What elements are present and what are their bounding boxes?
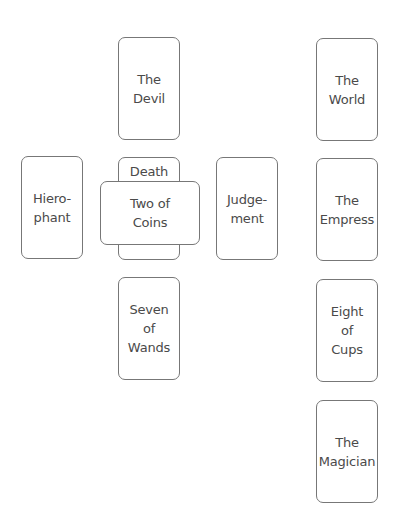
card-the-empress[interactable]: The Empress <box>316 158 378 261</box>
card-label: Death <box>130 162 168 181</box>
card-two-of-coins[interactable]: Two of Coins <box>100 181 200 245</box>
card-label: The Empress <box>320 191 374 229</box>
card-label: Eight of Cups <box>331 302 363 359</box>
card-label: Seven of Wands <box>128 300 170 357</box>
card-the-devil[interactable]: The Devil <box>118 37 180 140</box>
card-label: Two of Coins <box>130 194 170 232</box>
card-seven-of-wands[interactable]: Seven of Wands <box>118 277 180 380</box>
card-label: The Magician <box>319 433 375 471</box>
card-hierophant[interactable]: Hiero- phant <box>21 156 83 259</box>
tarot-spread-table: The Devil Hiero- phant Death Two of Coin… <box>0 0 398 525</box>
card-eight-of-cups[interactable]: Eight of Cups <box>316 279 378 382</box>
card-label: Judge- ment <box>227 190 267 228</box>
card-judgement[interactable]: Judge- ment <box>216 157 278 260</box>
card-the-world[interactable]: The World <box>316 38 378 141</box>
card-the-magician[interactable]: The Magician <box>316 400 378 503</box>
card-label: Hiero- phant <box>33 189 71 227</box>
card-label: The Devil <box>133 70 165 108</box>
card-label: The World <box>329 71 365 109</box>
